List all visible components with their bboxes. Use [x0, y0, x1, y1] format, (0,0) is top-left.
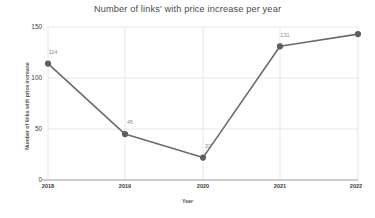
x-tick-label-2019: 2019 — [105, 183, 145, 189]
y-tick-label-100: 100 — [18, 74, 42, 81]
line-chart: Number of links' with price increase per… — [0, 0, 375, 218]
x-tick-label-2022: 2022 — [336, 183, 375, 189]
y-tick-label-50: 50 — [18, 125, 42, 132]
data-point — [277, 43, 283, 49]
data-point — [45, 61, 51, 67]
data-point — [355, 31, 361, 37]
x-tick-label-2018: 2018 — [28, 183, 68, 189]
data-label-2018: 114 — [38, 49, 68, 55]
data-label-2021: 131 — [270, 32, 300, 38]
y-tick-label-150: 150 — [18, 23, 42, 30]
x-tick-label-2021: 2021 — [260, 183, 300, 189]
data-point — [122, 131, 128, 137]
data-label-2020: 22 — [193, 143, 223, 149]
y-axis-title: Number of links with price increase — [24, 31, 30, 181]
y-tick-label-0: 0 — [18, 176, 42, 183]
data-point — [200, 155, 206, 161]
data-label-2019: 45 — [115, 119, 145, 125]
x-tick-label-2020: 2020 — [183, 183, 223, 189]
x-axis-title: Year — [0, 198, 375, 204]
